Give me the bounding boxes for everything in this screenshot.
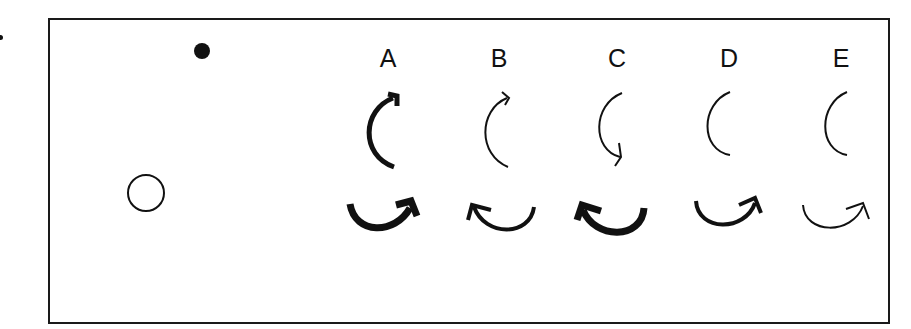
option-a-horizontal-arrow-icon bbox=[350, 201, 417, 228]
option-c-horizontal-arrow-icon bbox=[577, 205, 644, 232]
option-a-vertical-arrow-icon bbox=[369, 94, 397, 167]
option-e-vertical-arc-icon bbox=[825, 92, 847, 155]
option-b-horizontal-arrow-icon bbox=[468, 205, 534, 230]
option-d-horizontal-arrow-icon bbox=[696, 198, 761, 225]
option-b-vertical-arrow-icon bbox=[485, 92, 509, 167]
option-d-vertical-arc-icon bbox=[708, 92, 731, 155]
option-e-horizontal-arrow-icon bbox=[803, 203, 869, 228]
option-c-vertical-arrow-icon bbox=[599, 93, 622, 166]
